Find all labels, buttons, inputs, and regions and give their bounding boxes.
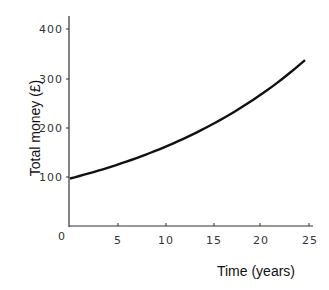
y-tick-400: 400 xyxy=(39,23,63,36)
x-axis-label: Time (years) xyxy=(217,263,295,279)
x-tick-20: 20 xyxy=(253,234,269,247)
x-tick-15: 15 xyxy=(206,234,222,247)
chart: 400 300 200 100 Total money (£) 0 5 10 1… xyxy=(0,0,329,290)
series-line-total-money xyxy=(70,60,305,178)
x-tick-10: 10 xyxy=(158,234,174,247)
y-axis-label: Total money (£) xyxy=(27,80,43,176)
x-tick-25: 25 xyxy=(302,234,318,247)
x-tick-0: 0 xyxy=(58,230,66,243)
x-tick-5: 5 xyxy=(114,234,122,247)
x-axis: 0 5 10 15 20 25 Time (years) xyxy=(58,223,318,279)
y-axis: 400 300 200 100 Total money (£) xyxy=(27,16,69,227)
